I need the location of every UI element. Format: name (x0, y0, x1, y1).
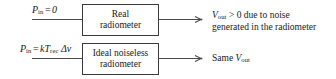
output-line-1-rest: > 0 due to noise (229, 10, 290, 20)
input-label-ideal-radiometer: Pin=kTrec Δν (20, 44, 71, 55)
output-symbol-subscript: out (241, 56, 250, 63)
input-label-real-radiometer: Pin=0 (32, 5, 57, 16)
block-label-line1: Real (112, 9, 129, 20)
input-value-bandwidth: Δν (61, 43, 71, 54)
block-ideal-noiseless-radiometer: Ideal noiseless radiometer (82, 43, 159, 75)
output-symbol-subscript: out (218, 13, 227, 20)
block-label-line2: radiometer (100, 20, 141, 31)
input-value-subscript: rec (50, 47, 58, 54)
output-label-real-radiometer: Vout > 0 due to noise generated in the r… (212, 10, 316, 33)
input-operator: = (43, 4, 52, 15)
output-line-1: Same Vout (212, 53, 250, 65)
output-arrowhead-ideal-radiometer (195, 54, 202, 63)
block-label-line2: radiometer (100, 59, 141, 70)
output-line-1: Vout > 0 due to noise (212, 10, 316, 22)
output-arrowhead-real-radiometer (195, 15, 202, 24)
block-label-line1: Ideal noiseless (93, 48, 149, 59)
input-wire-real-radiometer (32, 19, 82, 20)
diagram-canvas: Pin=0 Real radiometer Vout > 0 due to no… (0, 0, 336, 79)
output-prefix: Same (212, 53, 233, 63)
output-label-ideal-radiometer: Same Vout (212, 53, 250, 65)
output-line-2: generated in the radiometer (212, 22, 316, 34)
input-value: kT (40, 43, 50, 54)
input-wire-ideal-radiometer (32, 58, 82, 59)
input-operator: = (31, 43, 40, 54)
block-real-radiometer: Real radiometer (82, 4, 159, 36)
input-value: 0 (52, 4, 57, 15)
